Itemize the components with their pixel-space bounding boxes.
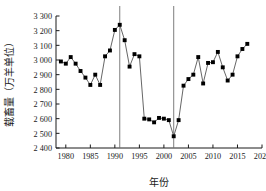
x-tick-label: 2005 [180,152,196,161]
data-point [108,49,112,53]
x-tick-label: 2000 [156,152,172,161]
data-point [172,134,176,138]
data-point [231,73,235,77]
x-axis-tick-labels: 198019851990199520002005201020152020 [58,152,266,161]
data-point [98,83,102,87]
data-point [147,117,151,121]
data-point [236,54,240,58]
data-point [103,54,107,58]
x-tick-label: 1990 [107,152,123,161]
data-point [245,42,249,46]
data-point [83,76,87,80]
series-polyline-group [61,25,247,136]
y-tick-label: 2 700 [34,100,52,109]
y-tick-label: 3 200 [34,27,52,36]
data-point [152,120,156,124]
y-tick-label: 2 600 [34,115,52,124]
data-point [201,82,205,86]
data-point [137,54,141,58]
data-point [196,55,200,59]
chart-figure: 2 4002 5002 6002 7002 8002 9003 0003 100… [0,0,266,191]
data-point [206,61,210,65]
x-tick-label: 2010 [205,152,221,161]
y-tick-label: 2 800 [34,86,52,95]
data-point [133,52,137,56]
axis-spines [56,16,262,148]
y-axis-title: 载畜量（万羊单位） [3,37,15,127]
data-point [59,60,63,64]
data-point [93,73,97,77]
y-tick-label: 2 400 [34,144,52,153]
y-tick-label: 3 100 [34,42,52,51]
data-point [211,60,215,64]
y-tick-label: 3 300 [34,12,52,21]
data-point [142,117,146,121]
data-point [79,69,83,73]
x-axis-title: 年份 [149,176,169,188]
y-axis-tick-labels: 2 4002 5002 6002 7002 8002 9003 0003 100… [34,12,52,153]
data-point [240,47,244,51]
reference-vertical-lines [120,6,174,148]
axis-tick-marks [56,16,262,148]
data-point [123,38,127,42]
data-point [177,118,181,122]
series-line-0 [61,25,247,136]
data-point [162,117,166,121]
data-point [118,23,122,27]
x-tick-label: 1985 [82,152,98,161]
y-tick-label: 3 000 [34,56,52,65]
livestock-carrying-capacity-line-chart: 2 4002 5002 6002 7002 8002 9003 0003 100… [0,0,266,191]
x-tick-label: 1995 [131,152,147,161]
data-point [69,55,73,59]
data-point [88,83,92,87]
data-point [128,65,132,69]
y-tick-label: 2 500 [34,130,52,139]
data-point [182,84,186,88]
data-point [64,62,68,66]
data-point [186,77,190,81]
x-tick-label: 2015 [229,152,245,161]
data-point [157,116,161,120]
data-point [191,73,195,77]
data-point [74,62,78,66]
x-tick-label: 1980 [58,152,74,161]
data-point [113,28,117,32]
data-point [216,50,220,54]
data-point [167,118,171,122]
data-point [221,65,225,69]
data-point [226,79,230,83]
y-tick-label: 2 900 [34,71,52,80]
x-tick-label: 2020 [254,152,266,161]
